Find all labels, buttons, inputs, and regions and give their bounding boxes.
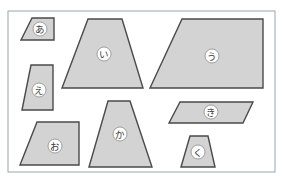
- shape-a-label: あ: [35, 24, 45, 35]
- shape-e-label: え: [34, 85, 44, 96]
- shape-o-label: お: [50, 141, 60, 152]
- figure-canvas: あいうえおかきく: [0, 0, 283, 185]
- shape-u-label: う: [207, 51, 217, 62]
- shape-ka-label: か: [115, 129, 125, 140]
- shape-ki-label: き: [206, 107, 216, 118]
- shape-ki[interactable]: き: [169, 102, 253, 123]
- trapezoid-worksheet-figure: あいうえおかきく: [0, 0, 283, 185]
- shape-ku-label: く: [193, 147, 203, 158]
- shape-i-label: い: [99, 49, 109, 60]
